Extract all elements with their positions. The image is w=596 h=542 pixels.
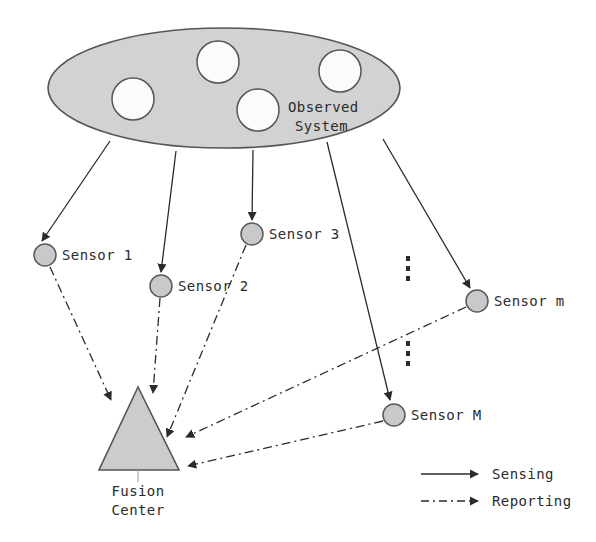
sensor-node-M[interactable]: Sensor M [383,404,482,426]
observed-system-label-line1: Observed [288,99,359,115]
sensor-3-label: Sensor 3 [269,226,340,242]
sensing-arrow-to-sensor-1 [42,141,110,241]
ellipsis-upper-dot-1 [406,256,410,261]
fusion-center-triangle[interactable] [99,387,179,470]
vertical-ellipsis-upper [406,256,410,281]
sensor-1-circle[interactable] [34,244,56,266]
ellipsis-upper-dot-2 [406,266,410,271]
observed-system-hole-2 [197,41,239,83]
sensor-node-m[interactable]: Sensor m [466,290,565,312]
reporting-arrow-from-sensor-1 [50,267,111,400]
sensor-node-2[interactable]: Sensor 2 [150,275,249,297]
reporting-arrow-from-sensor-3 [167,245,246,437]
vertical-ellipsis-lower [406,341,410,366]
legend-reporting-label: Reporting [492,493,571,509]
ellipsis-lower-dot-2 [406,351,410,356]
legend: Sensing Reporting [421,466,571,509]
vertical-ellipsis-group [406,256,410,366]
ellipsis-lower-dot-1 [406,341,410,346]
legend-sensing-label: Sensing [492,466,554,482]
observed-system-hole-1 [112,78,154,120]
observed-system-hole-3 [237,89,279,131]
observed-system-region: Observed System [48,28,400,148]
sensor-node-1[interactable]: Sensor 1 [34,244,133,266]
legend-item-reporting: Reporting [421,493,571,509]
sensor-2-circle[interactable] [150,275,172,297]
sensing-arrows-group [42,139,470,400]
observed-system-hole-4 [319,50,361,92]
diagram-canvas: Observed System Sensor 1 [0,0,596,542]
fusion-center-label-line2: Center [112,502,165,518]
sensing-arrow-to-sensor-2 [161,151,176,272]
fusion-center-label-line1: Fusion [112,483,165,499]
sensing-arrow-to-sensor-3 [252,150,253,220]
sensor-m-label: Sensor m [494,293,565,309]
legend-item-sensing: Sensing [421,466,554,482]
sensor-M-circle[interactable] [383,404,405,426]
ellipsis-lower-dot-3 [406,361,410,366]
reporting-arrow-from-sensor-M [188,421,383,466]
sensor-3-circle[interactable] [241,223,263,245]
ellipsis-upper-dot-3 [406,276,410,281]
fusion-center-node[interactable]: Fusion Center [99,387,179,518]
sensing-arrow-to-sensor-m [383,139,470,288]
reporting-arrows-group [50,245,466,466]
sensor-M-label: Sensor M [411,407,482,423]
reporting-arrow-from-sensor-2 [153,298,160,393]
sensor-m-circle[interactable] [466,290,488,312]
sensor-fusion-diagram: Observed System Sensor 1 [0,0,596,542]
sensor-nodes-group: Sensor 1 Sensor 2 Sensor 3 Sensor m Sens… [34,223,565,426]
sensing-arrow-to-sensor-M [327,142,390,400]
sensor-node-3[interactable]: Sensor 3 [241,223,340,245]
sensor-2-label: Sensor 2 [178,278,249,294]
sensor-1-label: Sensor 1 [62,247,133,263]
observed-system-label-line2: System [295,118,348,134]
